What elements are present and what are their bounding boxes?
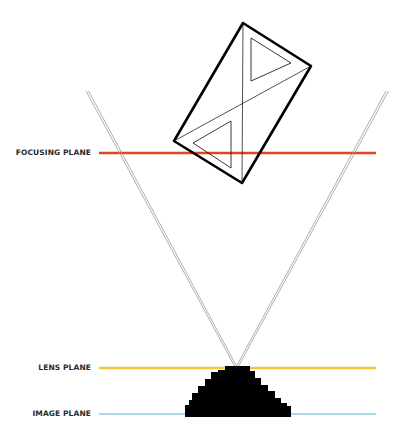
scheimpflug-diagram <box>0 0 401 441</box>
ray-right <box>236 91 389 367</box>
image-plane-label: IMAGE PLANE <box>32 409 91 419</box>
object-upper-triangle <box>251 38 291 81</box>
diagram-canvas: FOCUSING PLANE LENS PLANE IMAGE PLANE <box>0 0 401 441</box>
ray-left <box>86 91 237 367</box>
focus-object <box>174 23 311 183</box>
focusing-plane-label: FOCUSING PLANE <box>16 148 91 158</box>
lens-body <box>185 366 291 417</box>
object-lower-triangle <box>193 121 231 168</box>
lens-plane-label: LENS PLANE <box>38 363 91 373</box>
